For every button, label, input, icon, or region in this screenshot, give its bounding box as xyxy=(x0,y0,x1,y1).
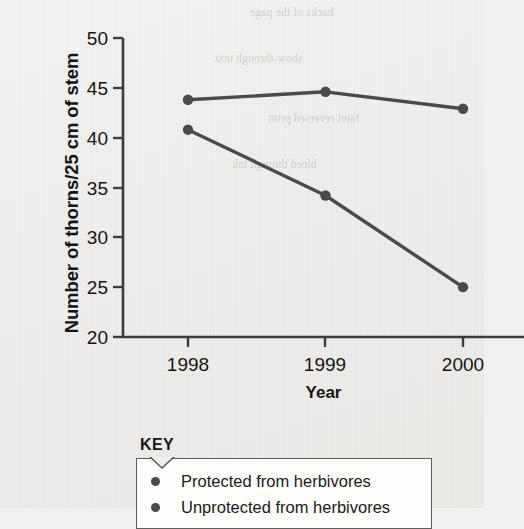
series-line xyxy=(188,130,463,287)
legend-marker-circle-icon xyxy=(151,477,160,486)
data-point xyxy=(458,104,468,114)
data-point xyxy=(458,282,468,292)
key-title: KEY xyxy=(140,436,432,454)
plot-area: 50 45 40 35 30 25 20 1998 1999 2000 xyxy=(40,16,524,376)
y-tick-label-45: 45 xyxy=(87,78,108,99)
data-series-layer xyxy=(183,87,468,293)
series-2 xyxy=(183,124,468,292)
series-1 xyxy=(183,87,468,114)
thorn-density-line-chart: 50 45 40 35 30 25 20 1998 1999 2000 Numb… xyxy=(40,16,524,524)
y-axis-title: Number of thorns/25 cm of stem xyxy=(61,43,83,343)
data-point xyxy=(320,87,330,97)
x-tick-label-1998: 1998 xyxy=(167,354,209,375)
data-point xyxy=(183,95,193,105)
x-axis-title: Year xyxy=(123,383,524,403)
legend-label-protected: Protected from herbivores xyxy=(181,472,371,491)
legend-item-unprotected: Unprotected from herbivores xyxy=(137,494,431,520)
x-axis-tick-labels: 1998 1999 2000 xyxy=(167,354,484,375)
legend-box: Protected from herbivores Unprotected fr… xyxy=(136,458,432,529)
legend-marker-circle-icon xyxy=(151,503,160,512)
y-tick-label-40: 40 xyxy=(87,128,108,149)
x-tick-label-1999: 1999 xyxy=(304,354,346,375)
y-axis-tick-labels: 50 45 40 35 30 25 20 xyxy=(87,28,108,348)
chart-key: KEY Protected from herbivores Unprotecte… xyxy=(136,436,432,529)
y-tick-label-25: 25 xyxy=(87,277,108,298)
legend-item-protected: Protected from herbivores xyxy=(137,468,431,494)
data-point xyxy=(183,124,193,134)
x-tick-label-2000: 2000 xyxy=(442,354,484,375)
y-axis-ticks xyxy=(113,38,123,337)
y-tick-label-20: 20 xyxy=(87,327,108,348)
y-tick-label-35: 35 xyxy=(87,178,108,199)
legend-notch xyxy=(149,457,175,470)
y-tick-label-30: 30 xyxy=(87,227,108,248)
x-axis-ticks xyxy=(188,337,463,347)
data-point xyxy=(320,190,330,200)
y-tick-label-50: 50 xyxy=(87,28,108,49)
legend-label-unprotected: Unprotected from herbivores xyxy=(181,498,390,517)
